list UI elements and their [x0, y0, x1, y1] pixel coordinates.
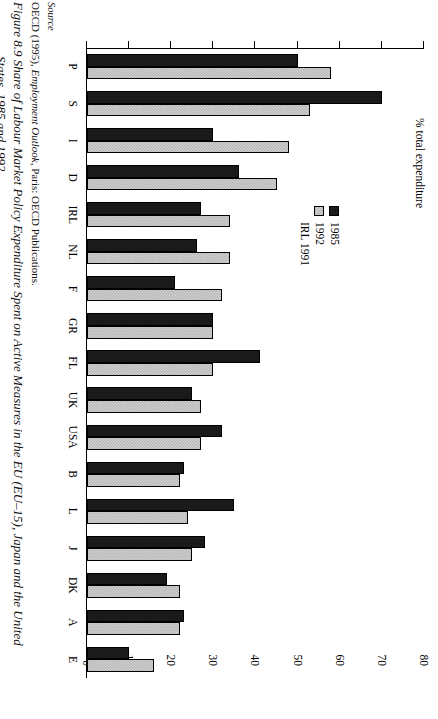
legend-item-1992: 1992: [312, 206, 327, 266]
legend-label-irl-1991: IRL 1991: [297, 222, 312, 266]
bar-1992-FL: [87, 363, 213, 376]
bar-1992-E: [87, 659, 154, 672]
x-axis-category-label: DK: [67, 577, 79, 594]
figure-title-line1: Figure 8.9 Share of Labour Market Policy…: [11, 2, 26, 646]
y-axis-tick: [255, 41, 256, 48]
source-publication-title: Employment Outlook: [31, 70, 43, 163]
y-axis-tick: [128, 41, 129, 48]
bar-1985-UK: [87, 387, 192, 400]
bar-1985-F: [87, 276, 175, 289]
x-axis-category-label: S: [67, 100, 79, 106]
bar-group: [87, 202, 425, 227]
y-axis-tick: [297, 41, 298, 48]
bar-1985-L: [87, 499, 234, 512]
bar-group: [87, 276, 425, 301]
bar-1985-DK: [87, 573, 167, 586]
bar-1992-I: [87, 141, 289, 154]
bar-group: [87, 313, 425, 338]
bar-1992-UK: [87, 400, 201, 413]
y-axis-line: [86, 48, 424, 49]
legend: 1985 1992 IRL 1991: [297, 206, 342, 266]
bar-1985-USA: [87, 425, 222, 438]
bar-group: [87, 350, 425, 375]
bar-1992-D: [87, 178, 277, 191]
bar-1985-J: [87, 536, 205, 549]
x-axis-category-label: IRL: [67, 205, 79, 224]
bar-1985-IRL: [87, 202, 201, 215]
x-axis-category-label: USA: [67, 426, 79, 449]
y-axis-tick: [339, 41, 340, 48]
legend-swatch-black-square-icon: [330, 206, 340, 216]
figure: % total expenditure 01020304050607080PSI…: [0, 0, 438, 719]
legend-swatch-grey-hatched-square-icon: [315, 206, 325, 216]
legend-swatch-none-icon: [300, 206, 310, 216]
bar-group: [87, 239, 425, 264]
legend-label-1985: 1985: [327, 222, 342, 245]
bar-1992-DK: [87, 585, 180, 598]
bar-1985-D: [87, 165, 239, 178]
x-axis-category-label: B: [67, 470, 79, 478]
bar-1985-FL: [87, 350, 260, 363]
legend-item-1985: 1985: [327, 206, 342, 266]
bar-1992-L: [87, 511, 188, 524]
bar-1985-E: [87, 647, 129, 660]
bar-1985-I: [87, 128, 213, 141]
bar-1985-NL: [87, 239, 197, 252]
bar-1985-GR: [87, 313, 213, 326]
bar-1992-NL: [87, 252, 230, 265]
bar-group: [87, 462, 425, 487]
source-line: OECD (1995), Employment Outlook, Paris: …: [29, 2, 44, 716]
bar-1992-A: [87, 622, 180, 635]
bar-1992-F: [87, 289, 222, 302]
bar-1985-P: [87, 54, 298, 67]
caption-block: Source OECD (1995), Employment Outlook, …: [0, 2, 58, 716]
bar-group: [87, 647, 425, 672]
bar-1992-J: [87, 548, 192, 561]
bar-1985-S: [87, 91, 382, 104]
source-post: , Paris: OECD Publications.: [31, 163, 43, 286]
bar-1992-GR: [87, 326, 213, 339]
rotated-page-container: % total expenditure 01020304050607080PSI…: [0, 0, 438, 719]
y-axis-tick: [212, 41, 213, 48]
x-axis-category-label: UK: [67, 392, 79, 409]
x-axis-category-label: I: [67, 139, 79, 143]
legend-label-1992: 1992: [312, 222, 327, 245]
bar-group: [87, 499, 425, 524]
bar-1992-USA: [87, 437, 201, 450]
bar-group: [87, 165, 425, 190]
source-pre: OECD (1995),: [31, 2, 43, 70]
source-label: Source: [44, 2, 59, 716]
y-axis-tick: [170, 41, 171, 48]
bar-group: [87, 536, 425, 561]
bar-group: [87, 610, 425, 635]
x-axis-category-label: F: [67, 286, 79, 292]
bar-group: [87, 573, 425, 598]
figure-title-line2: States, 1985 and 1992: [0, 56, 9, 172]
x-axis-category-label: L: [67, 508, 79, 515]
y-axis-tick: [423, 41, 424, 48]
bar-1992-IRL: [87, 215, 230, 228]
x-axis-category-label: NL: [67, 244, 79, 259]
bar-group: [87, 54, 425, 79]
x-axis-category-label: FL: [67, 356, 79, 369]
bar-1992-S: [87, 104, 310, 117]
bar-1985-B: [87, 462, 184, 475]
bar-group: [87, 91, 425, 116]
bar-chart-plot-area: % total expenditure 01020304050607080PSI…: [86, 48, 424, 678]
x-axis-category-label: P: [67, 63, 79, 69]
bar-1992-P: [87, 67, 331, 80]
bar-1985-A: [87, 610, 184, 623]
bar-1992-B: [87, 474, 180, 487]
legend-item-irl-1991: IRL 1991: [297, 206, 312, 266]
bar-group: [87, 387, 425, 412]
y-axis-tick: [381, 41, 382, 48]
x-axis-category-label: GR: [67, 318, 79, 334]
y-axis-tick: [86, 41, 87, 48]
x-axis-category-label: E: [67, 656, 79, 663]
x-axis-category-label: A: [67, 618, 79, 626]
bar-group: [87, 425, 425, 450]
bar-group: [87, 128, 425, 153]
figure-title: Figure 8.9 Share of Labour Market Policy…: [0, 2, 27, 716]
x-axis-category-label: J: [67, 546, 79, 550]
x-axis-category-label: D: [67, 174, 79, 182]
